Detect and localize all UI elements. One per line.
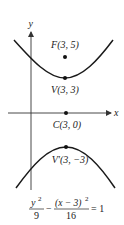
eq-term2-exponent: 2 <box>85 195 89 203</box>
vertex-label-V-prime: V′(3, −3) <box>52 154 89 166</box>
center-point-C <box>64 111 68 115</box>
center-label-C: C(3, 0) <box>53 119 82 131</box>
eq-term2-numerator: (x − 3) <box>55 198 81 209</box>
eq-minus: − <box>46 203 52 214</box>
y-axis-label: y <box>28 18 34 29</box>
hyperbola-diagram: y x F(3, 5) V(3, 3) C(3, 0) V′(3, −3) y … <box>0 0 124 225</box>
focus-label-F: F(3, 5) <box>50 39 79 51</box>
eq-term1-exponent: 2 <box>38 195 42 203</box>
vertex-label-V: V(3, 3) <box>51 84 79 96</box>
hyperbola-figure: y x F(3, 5) V(3, 3) C(3, 0) V′(3, −3) y … <box>0 0 124 225</box>
hyperbola-equation: y 2 9 − (x − 3) 2 16 = 1 <box>29 195 104 221</box>
eq-term1-numerator: y <box>30 197 36 208</box>
x-axis-label: x <box>113 107 119 118</box>
focus-point-F <box>63 55 67 59</box>
eq-term1-denominator: 9 <box>34 210 39 221</box>
eq-equals-one: = 1 <box>91 203 104 214</box>
vertex-point-V-prime <box>64 145 68 149</box>
eq-term2-denominator: 16 <box>66 210 76 221</box>
vertex-point-V <box>63 76 67 80</box>
